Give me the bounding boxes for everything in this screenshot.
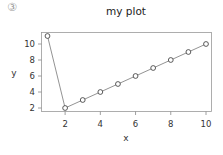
series-line bbox=[48, 36, 207, 108]
x-tick-label: 10 bbox=[201, 119, 212, 129]
plot-frame bbox=[42, 33, 212, 112]
y-tick-label: 6 bbox=[30, 71, 35, 81]
series-group bbox=[45, 34, 208, 111]
data-point bbox=[116, 82, 121, 87]
y-tick-label: 2 bbox=[30, 103, 35, 113]
line-chart: my plot 246810 246810 x y bbox=[0, 0, 223, 155]
data-point bbox=[204, 42, 209, 47]
x-tick-label: 8 bbox=[168, 119, 173, 129]
data-point bbox=[63, 106, 68, 111]
y-tick-label: 8 bbox=[30, 55, 35, 65]
x-axis-label: x bbox=[123, 133, 129, 143]
data-point bbox=[186, 50, 191, 55]
data-point bbox=[133, 74, 138, 79]
x-tick-label: 4 bbox=[98, 119, 103, 129]
data-point bbox=[45, 34, 50, 39]
data-point bbox=[151, 66, 156, 71]
x-tick-label: 2 bbox=[62, 119, 67, 129]
y-axis: 246810 bbox=[24, 39, 41, 113]
x-axis: 246810 bbox=[62, 112, 211, 130]
y-tick-label: 10 bbox=[24, 39, 35, 49]
y-axis-label: y bbox=[11, 68, 17, 78]
data-point bbox=[80, 98, 85, 103]
chart-title: my plot bbox=[106, 5, 146, 17]
data-point bbox=[98, 90, 103, 95]
y-tick-label: 4 bbox=[30, 87, 35, 97]
x-tick-label: 6 bbox=[133, 119, 138, 129]
data-point bbox=[168, 58, 173, 63]
